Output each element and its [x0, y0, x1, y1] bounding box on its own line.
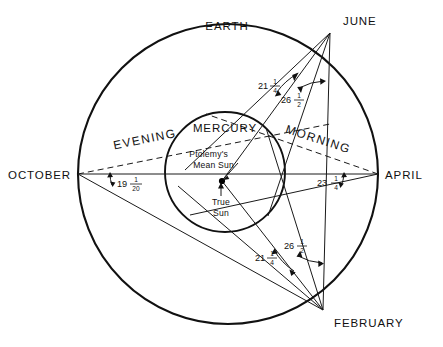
angle-june-outer-numerator: 1 — [273, 78, 277, 85]
angle-february-outer-denominator: 4 — [270, 259, 274, 266]
month-label-june: JUNE — [343, 15, 377, 27]
angle-june-inner-whole: 26 — [281, 95, 291, 105]
angle-february-outer-numerator: 1 — [270, 250, 274, 257]
mercury-orbit-label: MERCURY — [193, 122, 257, 134]
october-arc-arrowhead-b — [110, 181, 115, 187]
evening-elongation-label: EVENING — [112, 126, 177, 152]
angle-february-outer-whole: 21 — [255, 253, 265, 263]
angle-june-inner-denominator: 2 — [297, 101, 301, 108]
mean-sun-label-line1: Ptolemy's — [189, 149, 228, 159]
true-sun-label-line1: True — [212, 197, 230, 207]
angle-october-denominator: 20 — [132, 185, 140, 192]
angle-february-inner-whole: 26 — [284, 241, 294, 251]
angle-label-june-inner: 26 1 2 — [281, 92, 304, 108]
angle-april-whole: 23 — [317, 178, 327, 188]
true-sun-label-line2: Sun — [213, 208, 229, 218]
angle-april-numerator: 1 — [334, 175, 338, 182]
angle-february-inner-denominator: 2 — [300, 247, 304, 254]
angle-label-february-inner: 26 1 2 — [284, 238, 307, 254]
angle-june-outer-whole: 21 — [258, 81, 268, 91]
october-arc-arrowhead-a — [107, 172, 113, 178]
april-arc-arrowhead-a — [341, 172, 347, 178]
month-label-february: FEBRUARY — [334, 317, 404, 329]
angle-label-april: 23 1 4 — [317, 175, 341, 191]
earth-orbit-label: EARTH — [205, 20, 248, 32]
ptolemy-mercury-diagram: EARTH MERCURY JUNE APRIL FEBRUARY OCTOBE… — [0, 0, 443, 347]
june-february-chord — [323, 33, 330, 310]
angle-label-june-outer: 21 1 4 — [258, 78, 280, 94]
mean-sun-label-line2: Mean Sun — [193, 160, 234, 170]
angle-label-october: 19 1 20 — [117, 176, 142, 192]
month-label-april: APRIL — [385, 169, 423, 181]
june-inner-arc-arrowhead-b — [320, 78, 326, 85]
angle-february-inner-numerator: 1 — [300, 238, 304, 245]
february-to-sun-line — [222, 181, 323, 310]
february-inner-arc-arrowhead-b — [318, 260, 324, 267]
angle-october-whole: 19 — [117, 179, 127, 189]
angle-june-inner-numerator: 1 — [297, 92, 301, 99]
angle-april-denominator: 4 — [334, 184, 338, 191]
diagram-canvas: EARTH MERCURY JUNE APRIL FEBRUARY OCTOBE… — [0, 0, 443, 347]
angle-label-february-outer: 21 1 4 — [255, 250, 277, 266]
june-tangent-morning-line — [268, 33, 330, 216]
month-label-october: OCTOBER — [8, 169, 71, 181]
angle-october-numerator: 1 — [134, 176, 138, 183]
angle-june-outer-denominator: 4 — [273, 87, 277, 94]
